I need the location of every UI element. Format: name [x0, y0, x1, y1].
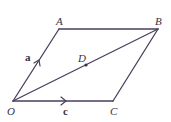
label-vector-c: c — [63, 105, 68, 117]
parallelogram-diagram: A B O C D a c — [0, 0, 171, 122]
label-D: D — [77, 52, 86, 64]
label-A: A — [55, 15, 63, 27]
label-O: O — [7, 105, 15, 117]
label-B: B — [155, 15, 162, 27]
label-vector-a: a — [25, 51, 31, 63]
label-C: C — [110, 105, 118, 117]
